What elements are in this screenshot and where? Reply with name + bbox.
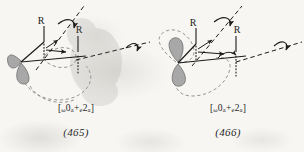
interaction-arrows-465 <box>46 40 66 52</box>
figure-page: R R [ω0a+e2a] (465) <box>0 0 304 152</box>
interaction-arrows-466 <box>198 40 236 58</box>
figure-number-466: (466) <box>152 126 304 138</box>
orbital-lobes-465 <box>8 55 30 84</box>
substituent-label-R-left-466: R <box>190 17 197 28</box>
formula-close-bracket: ] <box>91 103 94 113</box>
figure-panel-465: R R [ω0a+e2a] (465) <box>0 0 152 152</box>
substituent-label-R-right-466: R <box>234 24 241 35</box>
orbital-diagram-465: R R <box>0 0 152 118</box>
rotation-arrow-tilted-466 <box>214 18 230 26</box>
orbital-diagram-466: R R <box>152 0 304 118</box>
horizontal-dashed-axis-466 <box>236 42 302 62</box>
figure-number-465: (465) <box>0 126 152 138</box>
substituent-label-R-left-465: R <box>38 15 45 26</box>
figure-panel-466: R R [ω0a+e2a] (466) <box>152 0 304 152</box>
electronic-configuration-label-465: [ω0a+e2a] <box>0 104 152 114</box>
electronic-configuration-label-466: [ω0a+e2a] <box>152 104 304 114</box>
formula-close-bracket: ] <box>243 103 246 113</box>
substituent-label-R-right-465: R <box>76 24 83 35</box>
